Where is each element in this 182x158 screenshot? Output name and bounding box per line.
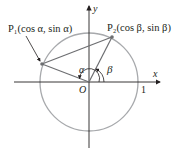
point-p2 xyxy=(110,35,114,39)
segment-p1-p2 xyxy=(42,37,112,64)
p1-label: P₁(cos α, sin α) xyxy=(8,23,73,35)
alpha-label: α xyxy=(79,64,85,75)
segment-o-p2 xyxy=(89,37,112,82)
beta-arc xyxy=(96,69,104,82)
unit-circle-diagram: P₁(cos α, sin α) P₂(cos β, sin β) α β O … xyxy=(0,0,182,158)
p2-label: P₂(cos β, sin β) xyxy=(107,22,171,34)
x-axis-label: x xyxy=(152,68,158,79)
unit-label: 1 xyxy=(141,84,146,95)
p1-pointer-arrow xyxy=(26,36,40,61)
beta-label: β xyxy=(106,63,113,75)
y-axis-label: y xyxy=(92,3,98,14)
origin-label: O xyxy=(79,84,86,95)
point-p1 xyxy=(40,62,44,66)
